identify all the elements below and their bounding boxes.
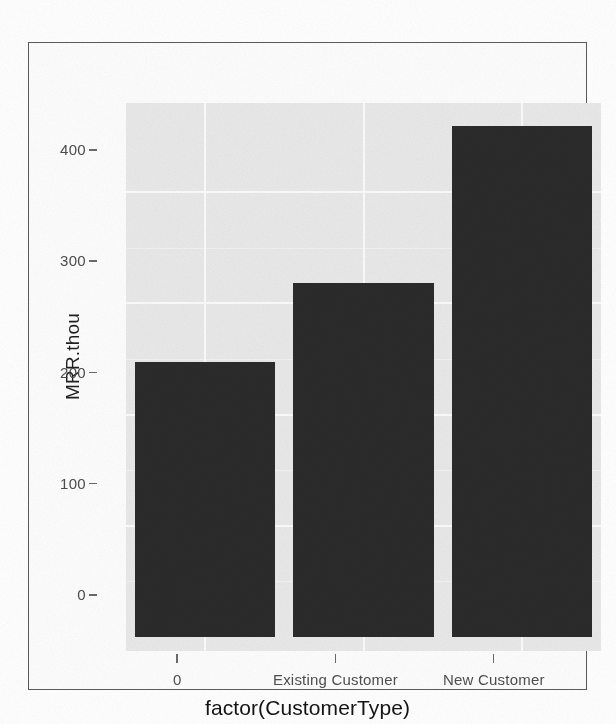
y-tick-mark-0	[89, 594, 97, 596]
y-tick-mark-200	[89, 372, 97, 374]
y-tick-mark-100	[89, 483, 97, 485]
x-tick-mark-0	[176, 654, 178, 663]
y-tick-mark-400	[89, 149, 97, 151]
plot-panel	[126, 103, 601, 651]
y-axis-title: MRR.thou	[62, 270, 84, 400]
y-tick-mark-300	[89, 260, 97, 262]
x-tick-mark-1	[335, 654, 337, 663]
x-tick-mark-2	[493, 654, 495, 663]
bar-2[interactable]	[452, 126, 592, 637]
figure-frame: MRR.thou 0100200300400 0Existing Custome…	[28, 42, 587, 690]
y-tick-label-100: 100	[40, 475, 86, 492]
x-tick-label-0: 0	[173, 671, 182, 688]
bar-0[interactable]	[135, 362, 275, 637]
bar-1[interactable]	[293, 283, 433, 637]
y-tick-label-0: 0	[40, 586, 86, 603]
x-tick-label-2: New Customer	[443, 671, 545, 688]
x-axis-title: factor(CustomerType)	[29, 696, 586, 720]
x-tick-label-1: Existing Customer	[273, 671, 398, 688]
y-tick-label-300: 300	[40, 252, 86, 269]
y-tick-label-400: 400	[40, 141, 86, 158]
y-tick-label-200: 200	[40, 364, 86, 381]
